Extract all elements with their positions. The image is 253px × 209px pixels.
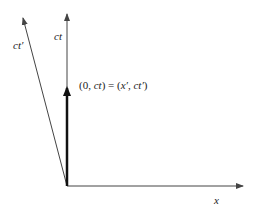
x-axis-label: x: [213, 194, 219, 206]
spacetime-diagram: ct ct′ x (0, ct) = (x′, ct′): [0, 0, 253, 209]
ct-axis-label: ct: [54, 30, 63, 42]
ct-prime-axis-label: ct′: [13, 39, 24, 51]
vector-label: (0, ct) = (x′, ct′): [79, 79, 148, 92]
ct-prime-axis: [23, 18, 67, 186]
